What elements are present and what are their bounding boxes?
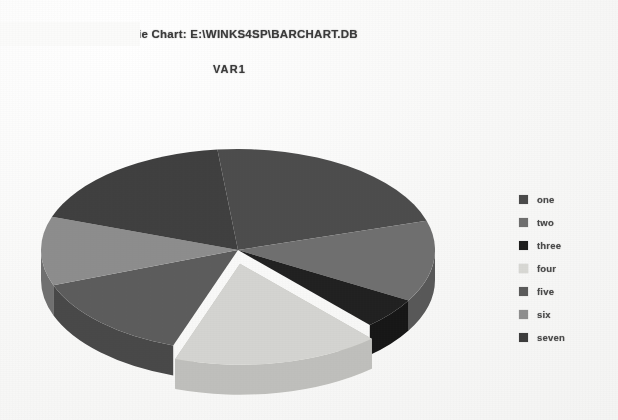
legend-item-one[interactable]: one [519,188,615,211]
legend-swatch-icon [519,310,528,319]
legend-item-label: seven [537,332,565,343]
chart-canvas: ie Chart: E:\WINKS4SP\BARCHART.DB VAR1 o… [0,0,618,420]
legend-swatch-icon [519,287,528,296]
legend-swatch-icon [519,264,528,273]
legend-item-label: one [537,194,555,205]
legend-item-label: three [537,240,561,251]
legend-item-label: six [537,309,551,320]
legend-item-label: four [537,263,556,274]
legend-item-five[interactable]: five [519,280,615,303]
legend-swatch-icon [519,241,528,250]
legend-item-four[interactable]: four [519,257,615,280]
legend-item-two[interactable]: two [519,211,615,234]
legend-item-label: five [537,286,554,297]
legend-swatch-icon [519,333,528,342]
title-left-clip-mask [0,22,140,46]
legend-item-six[interactable]: six [519,303,615,326]
legend-item-three[interactable]: three [519,234,615,257]
chart-title: ie Chart: E:\WINKS4SP\BARCHART.DB [138,28,358,40]
legend-item-label: two [537,217,554,228]
legend-swatch-icon [519,195,528,204]
legend-swatch-icon [519,218,528,227]
chart-legend: onetwothreefourfivesixseven [519,188,615,349]
legend-item-seven[interactable]: seven [519,326,615,349]
chart-subtitle: VAR1 [213,63,246,75]
